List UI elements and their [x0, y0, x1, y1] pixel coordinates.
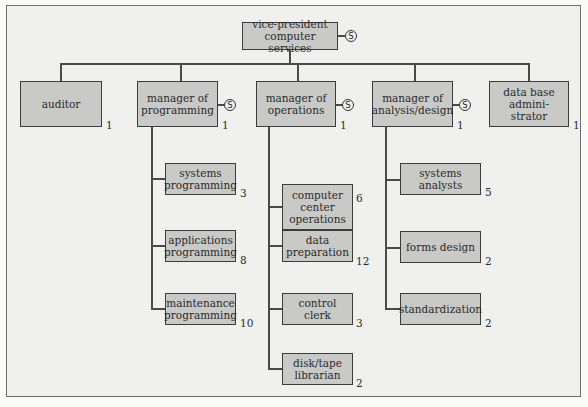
- box-manager-analysis-design: manager ofanalysis/design: [372, 81, 453, 127]
- box-manager-programming: manager ofprogramming: [137, 81, 218, 127]
- connector: [385, 179, 400, 181]
- connector: [151, 126, 153, 309]
- box-label-line: center: [300, 201, 334, 213]
- box-label-line: applications: [168, 234, 233, 246]
- box-computer-center-operations: computercenteroperations: [282, 184, 353, 230]
- headcount: 3: [356, 318, 363, 328]
- connector: [414, 63, 416, 81]
- staff-icon: S: [459, 99, 471, 111]
- connector: [268, 368, 282, 370]
- connector: [335, 104, 342, 106]
- box-systems-programming: systemsprogramming: [165, 163, 236, 195]
- connector: [217, 104, 224, 106]
- box-label-line: admini-: [509, 98, 549, 110]
- box-auditor: auditor: [20, 81, 102, 127]
- connector: [297, 63, 299, 81]
- headcount: 1: [457, 120, 464, 130]
- headcount: 1: [573, 120, 580, 130]
- connector: [528, 63, 530, 81]
- box-data-base-administrator: data baseadmini-strator: [489, 81, 569, 127]
- headcount: 1: [340, 120, 347, 130]
- box-manager-operations: manager ofoperations: [256, 81, 336, 127]
- box-control-clerk: controlclerk: [282, 293, 353, 325]
- box-label-line: operations: [268, 104, 325, 116]
- box-applications-programming: applicationsprogramming: [165, 230, 236, 262]
- box-label-line: manager of: [266, 92, 327, 104]
- connector: [60, 63, 62, 81]
- box-maintenance-programming: maintenanceprogramming: [165, 293, 236, 325]
- headcount: 1: [222, 120, 229, 130]
- headcount: 3: [240, 188, 247, 198]
- connector: [337, 35, 345, 37]
- headcount: 2: [485, 318, 492, 328]
- box-systems-analysts: systemsanalysts: [400, 163, 481, 195]
- connector: [385, 126, 387, 309]
- connector: [268, 206, 282, 208]
- box-label-line: analysts: [419, 179, 463, 191]
- box-label-line: manager of: [382, 92, 443, 104]
- box-vice-president: vice-presidentcomputer services: [242, 22, 338, 50]
- connector: [385, 247, 400, 249]
- box-label-line: programming: [164, 179, 237, 191]
- staff-icon: S: [345, 30, 357, 42]
- box-label-line: manager of: [147, 92, 208, 104]
- staff-icon: S: [342, 99, 354, 111]
- box-label-line: standardization: [399, 303, 482, 315]
- headcount: 2: [485, 256, 492, 266]
- box-label-line: programming: [141, 104, 214, 116]
- headcount: 1: [106, 120, 113, 130]
- box-label-line: analysis/design: [372, 104, 453, 116]
- box-label-line: auditor: [42, 98, 81, 110]
- box-label-line: data base: [503, 86, 554, 98]
- connector: [151, 178, 165, 180]
- connector: [180, 63, 182, 81]
- box-label-line: operations: [289, 213, 346, 225]
- connector: [60, 63, 529, 65]
- box-label-line: computer: [292, 189, 343, 201]
- box-label-line: programming: [164, 246, 237, 258]
- headcount: 6: [356, 193, 363, 203]
- box-label-line: control: [299, 297, 337, 309]
- headcount: 5: [485, 187, 492, 197]
- box-label-line: disk/tape: [293, 357, 342, 369]
- box-forms-design: forms design: [400, 231, 481, 263]
- box-label-line: data: [306, 234, 329, 246]
- box-label-line: strator: [511, 110, 547, 122]
- headcount: 2: [356, 378, 363, 388]
- box-label-line: maintenance: [166, 297, 235, 309]
- connector: [385, 308, 400, 310]
- box-label-line: forms design: [406, 241, 475, 253]
- headcount: 10: [240, 318, 253, 328]
- headcount: 8: [240, 255, 247, 265]
- box-label-line: librarian: [294, 369, 340, 381]
- headcount: 12: [356, 256, 369, 266]
- box-disk-tape-librarian: disk/tapelibrarian: [282, 353, 353, 385]
- box-label-line: clerk: [304, 309, 331, 321]
- staff-icon: S: [224, 99, 236, 111]
- box-standardization: standardization: [400, 293, 481, 325]
- connector: [268, 245, 282, 247]
- box-data-preparation: datapreparation: [282, 230, 353, 262]
- box-label-line: systems: [419, 167, 462, 179]
- connector: [151, 245, 165, 247]
- box-label-line: preparation: [286, 246, 349, 258]
- box-label-line: programming: [164, 309, 237, 321]
- box-label-line: vice-president: [252, 18, 328, 30]
- box-label-line: systems: [179, 167, 222, 179]
- connector: [268, 126, 270, 369]
- connector: [268, 308, 282, 310]
- box-label-line: computer services: [264, 30, 315, 54]
- connector: [151, 308, 165, 310]
